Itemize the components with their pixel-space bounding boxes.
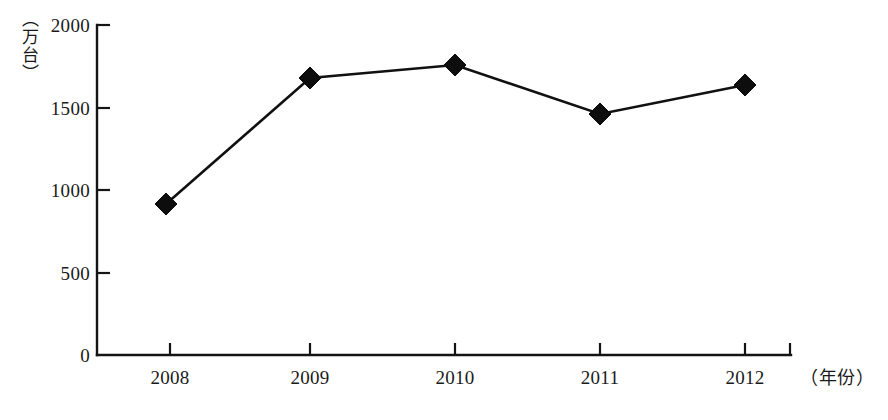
data-point-2011	[589, 103, 611, 125]
y-tick-label-500: 500	[28, 264, 90, 283]
x-axis-title: （年份）	[800, 368, 874, 388]
y-tick-label-0: 0	[28, 346, 90, 365]
y-tick-label-2000: 2000	[28, 16, 90, 35]
x-tick-label-2012: 2012	[705, 368, 785, 387]
x-tick-label-2011: 2011	[560, 368, 640, 387]
x-tick-label-2009: 2009	[270, 368, 350, 387]
y-axis-ticks	[97, 25, 110, 273]
data-point-2010	[444, 54, 466, 76]
series-line-production	[166, 65, 745, 204]
x-axis-ticks	[170, 343, 790, 355]
y-tick-label-1500: 1500	[28, 99, 90, 118]
y-tick-label-1000: 1000	[28, 181, 90, 200]
x-tick-label-2008: 2008	[130, 368, 210, 387]
chart-plot-area	[0, 0, 888, 420]
x-tick-label-2010: 2010	[415, 368, 495, 387]
data-point-2012	[734, 74, 756, 96]
line-chart: （万台） 2000 1500 1000 500 0 2008 2009 2010…	[0, 0, 888, 420]
